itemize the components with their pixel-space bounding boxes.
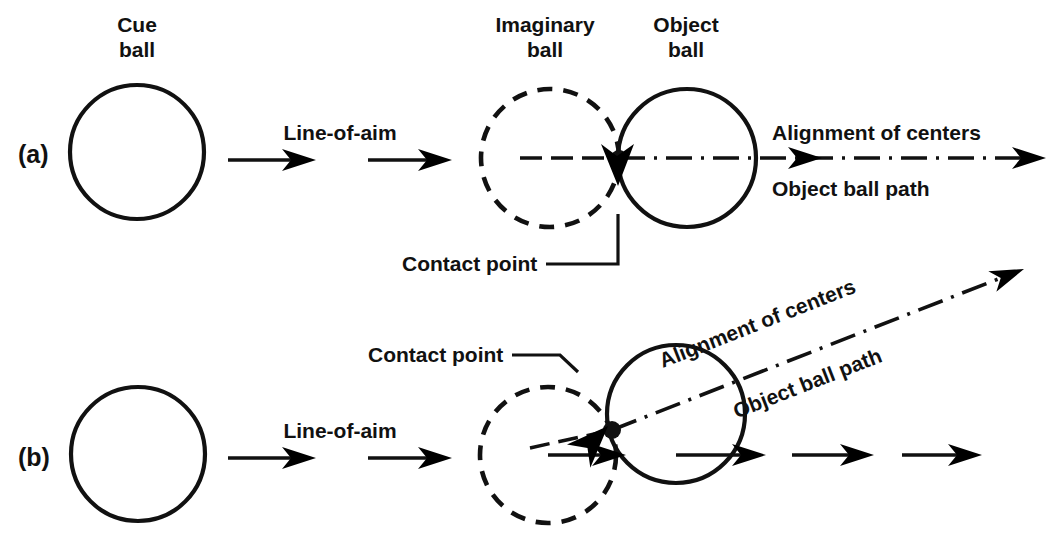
object-ball-label-line2: ball <box>668 38 704 61</box>
alignment-of-centers-label-b: Alignment of centers <box>656 274 859 372</box>
cue-ball-a <box>70 85 204 219</box>
cue-ball-label-line2: ball <box>119 38 155 61</box>
panel-b-label: (b) <box>18 443 50 471</box>
imaginary-ball-label-line2: ball <box>527 38 563 61</box>
line-of-aim-arrow-b-2 <box>368 447 452 469</box>
object-ball-label-line1: Object <box>653 13 718 36</box>
line-of-aim-arrow-a-1 <box>228 149 316 171</box>
billiards-aiming-figure: (a) Cue ball Line-of-aim Imaginary ball … <box>0 0 1053 550</box>
alignment-of-centers-label-a: Alignment of centers <box>772 121 981 144</box>
path-arrow-b-1 <box>676 444 766 466</box>
diagram-canvas: (a) Cue ball Line-of-aim Imaginary ball … <box>0 0 1053 550</box>
imaginary-ball-label-line1: Imaginary <box>495 13 595 36</box>
path-arrow-b-2 <box>792 444 874 466</box>
contact-point-leader-a <box>546 214 618 264</box>
contact-point-label-a: Contact point <box>402 252 537 275</box>
path-arrow-b-3 <box>902 444 982 466</box>
line-of-aim-label-b: Line-of-aim <box>283 419 396 442</box>
cue-ball-label-line1: Cue <box>117 13 157 36</box>
object-ball-path-label-a: Object ball path <box>772 177 930 200</box>
panel-a: (a) Cue ball Line-of-aim Imaginary ball … <box>18 13 1046 275</box>
contact-point-leader-b <box>512 355 578 372</box>
contact-point-label-b: Contact point <box>368 343 503 366</box>
panel-b: (b) Line-of-aim <box>18 259 1028 523</box>
panel-a-label: (a) <box>18 140 49 168</box>
line-of-aim-arrow-b-1 <box>228 447 316 469</box>
cue-ball-b <box>71 387 205 521</box>
line-of-aim-label-a: Line-of-aim <box>283 121 396 144</box>
alignment-of-centers-line-a <box>619 147 1046 169</box>
line-of-aim-arrow-a-2 <box>368 149 452 171</box>
